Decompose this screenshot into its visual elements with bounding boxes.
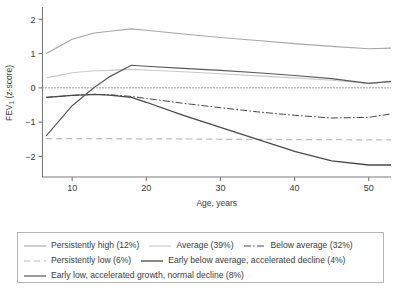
x-tick-label: 20: [141, 183, 151, 193]
x-tick-label: 30: [215, 183, 225, 193]
legend-line-swatch-icon: [244, 242, 266, 250]
y-tick-label: 1: [30, 49, 35, 59]
figure: 210−1−21020304050Age, yearsFEV1 (z-score…: [0, 0, 401, 291]
y-tick-label: 2: [30, 15, 35, 25]
series-line-2: [46, 94, 391, 118]
y-tick-label: −1: [25, 117, 35, 127]
legend-line-swatch-icon: [141, 257, 163, 265]
x-tick-label: 50: [364, 183, 374, 193]
x-axis-title: Age, years: [196, 198, 237, 208]
legend-row: Persistently high (12%)Average (39%)Belo…: [24, 238, 377, 253]
series-line-4: [46, 94, 391, 165]
legend-label: Early low, accelerated growth, normal de…: [51, 271, 244, 280]
legend-item[interactable]: Persistently high (12%): [24, 241, 139, 250]
legend-line-swatch-icon: [24, 272, 46, 280]
series-line-5: [46, 65, 391, 136]
legend-label: Persistently low (6%): [51, 256, 131, 265]
series-line-0: [46, 29, 391, 54]
x-tick-label: 10: [67, 183, 77, 193]
series-line-3: [46, 139, 391, 140]
legend-item[interactable]: Below average (32%): [244, 241, 353, 250]
y-axis-title: FEV1 (z-score): [4, 65, 15, 121]
series-line-1: [46, 69, 391, 83]
legend-item[interactable]: Persistently low (6%): [24, 256, 131, 265]
y-tick-label: −2: [25, 152, 35, 162]
legend-label: Persistently high (12%): [51, 241, 139, 250]
legend-item[interactable]: Early below average, accelerated decline…: [141, 256, 345, 265]
legend-label: Below average (32%): [271, 241, 353, 250]
legend-row: Early low, accelerated growth, normal de…: [24, 268, 377, 283]
legend-label: Early below average, accelerated decline…: [168, 256, 345, 265]
legend-label: Average (39%): [176, 241, 233, 250]
chart-legend: Persistently high (12%)Average (39%)Belo…: [17, 232, 384, 283]
legend-item[interactable]: Early low, accelerated growth, normal de…: [24, 271, 244, 280]
legend-line-swatch-icon: [24, 257, 46, 265]
legend-line-swatch-icon: [24, 242, 46, 250]
x-tick-label: 40: [290, 183, 300, 193]
legend-line-swatch-icon: [149, 242, 171, 250]
y-tick-label: 0: [30, 83, 35, 93]
legend-row: Persistently low (6%)Early below average…: [24, 253, 377, 268]
legend-item[interactable]: Average (39%): [149, 241, 233, 250]
